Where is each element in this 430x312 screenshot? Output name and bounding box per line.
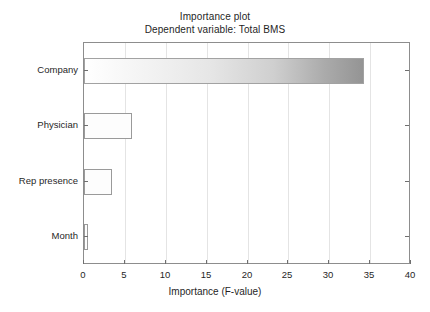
x-axis-tick-label: 0: [63, 269, 103, 280]
x-axis-tick: [410, 260, 411, 264]
x-axis-tick-label: 15: [186, 269, 226, 280]
x-axis-tick-label: 25: [267, 269, 307, 280]
y-axis-tick-right: [405, 125, 409, 126]
bar: [84, 224, 88, 250]
bar: [84, 113, 132, 139]
chart-title: Importance plot: [0, 10, 430, 23]
y-axis-tick-right: [405, 236, 409, 237]
x-axis-tick-label: 20: [227, 269, 267, 280]
x-axis-tick-label: 40: [390, 269, 430, 280]
x-axis-tick: [328, 260, 329, 264]
bar: [84, 169, 112, 195]
y-axis-tick-right: [405, 181, 409, 182]
bars-layer: [84, 43, 409, 263]
importance-plot-chart: Importance plot Dependent variable: Tota…: [0, 0, 430, 312]
y-axis-tick-right: [405, 70, 409, 71]
y-axis-tick-label: Company: [37, 64, 78, 75]
x-axis-tick: [287, 260, 288, 264]
y-axis-tick-label: Physician: [37, 119, 78, 130]
x-axis-title: Importance (F-value): [0, 286, 430, 297]
x-axis-tick: [83, 260, 84, 264]
x-axis-tick: [206, 260, 207, 264]
y-axis-tick: [84, 181, 88, 182]
x-axis-tick: [124, 260, 125, 264]
x-axis-tick: [369, 260, 370, 264]
x-axis-tick-label: 5: [104, 269, 144, 280]
x-axis-tick-label: 10: [145, 269, 185, 280]
bar: [84, 58, 364, 84]
x-axis-tick: [165, 260, 166, 264]
y-axis-tick: [84, 236, 88, 237]
y-axis-tick: [84, 125, 88, 126]
chart-subtitle: Dependent variable: Total BMS: [0, 23, 430, 36]
y-axis-tick-label: Rep presence: [19, 175, 78, 186]
x-axis-tick-label: 30: [308, 269, 348, 280]
x-axis-tick-label: 35: [349, 269, 389, 280]
x-axis-tick: [247, 260, 248, 264]
plot-area: [83, 42, 410, 264]
y-axis-tick-label: Month: [52, 230, 78, 241]
y-axis-tick: [84, 70, 88, 71]
chart-title-block: Importance plot Dependent variable: Tota…: [0, 10, 430, 36]
